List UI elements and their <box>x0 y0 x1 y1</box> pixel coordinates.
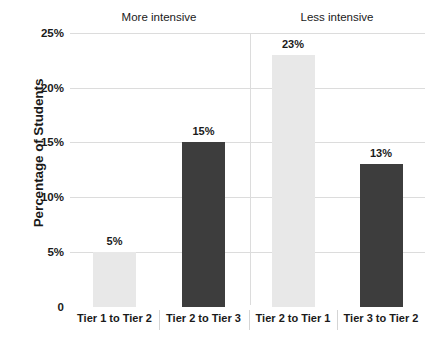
y-axis-tick: 20% <box>24 82 64 94</box>
x-axis-label: Tier 1 to Tier 2 <box>77 312 152 324</box>
group-divider-line <box>250 33 251 305</box>
x-label-separator <box>249 310 250 330</box>
group-header: Less intensive <box>301 11 374 23</box>
bar <box>182 142 225 306</box>
y-axis-tick: 5% <box>24 246 64 258</box>
x-label-separator <box>159 310 160 330</box>
gridline <box>70 142 425 143</box>
bar-value-label: 15% <box>192 125 214 137</box>
y-axis-tick-labels: 25%20%15%10%5%0 <box>18 33 64 305</box>
x-axis-label: Tier 2 to Tier 1 <box>256 312 331 324</box>
bar-chart: Percentage of Students 25%20%15%10%5%0 M… <box>0 0 436 344</box>
y-axis-tick: 0 <box>24 301 64 313</box>
x-axis-label: Tier 3 to Tier 2 <box>344 312 419 324</box>
x-label-separator <box>337 310 338 330</box>
bar <box>360 164 403 306</box>
y-axis-tick: 10% <box>24 191 64 203</box>
bar <box>93 252 136 307</box>
y-axis-tick: 15% <box>24 136 64 148</box>
y-axis-tick: 25% <box>24 27 64 39</box>
gridline <box>70 33 425 34</box>
x-axis-label: Tier 2 to Tier 3 <box>166 312 241 324</box>
group-header: More intensive <box>122 11 197 23</box>
bar-value-label: 5% <box>107 235 123 247</box>
gridline <box>70 88 425 89</box>
bar-value-label: 23% <box>282 38 304 50</box>
bar-value-label: 13% <box>370 147 392 159</box>
plot-area <box>70 33 425 305</box>
bar <box>272 55 315 307</box>
